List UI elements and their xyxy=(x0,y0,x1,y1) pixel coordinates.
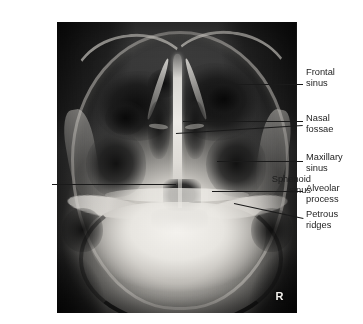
label-frontal-sinus-line-2: sinus xyxy=(306,78,335,89)
label-frontal-sinus: Frontalsinus xyxy=(306,67,335,90)
label-alveolar-process: Alveolarprocess xyxy=(306,183,340,206)
film-vignette xyxy=(57,22,297,313)
label-petrous-ridges-line-2: ridges xyxy=(306,220,338,231)
leader-line-nasal-fossae xyxy=(183,121,303,122)
label-petrous-ridges-line-1: Petrous xyxy=(306,209,338,220)
label-alveolar-process-line-2: process xyxy=(306,194,340,205)
label-nasal-fossae: Nasalfossae xyxy=(306,113,333,136)
figure-paranasal-sinus-radiograph: R FrontalsinusNasalfossaeMaxillarysinusA… xyxy=(0,0,363,324)
label-sphenoid-sinus: Sphenoidsinus xyxy=(272,174,311,197)
side-marker-right: R xyxy=(276,290,284,302)
label-nasal-fossae-line-1: Nasal xyxy=(306,113,333,124)
label-sphenoid-sinus-line-2: sinus xyxy=(272,185,311,196)
label-maxillary-sinus: Maxillarysinus xyxy=(306,152,343,175)
label-nasal-fossae-line-2: fossae xyxy=(306,124,333,135)
label-alveolar-process-line-1: Alveolar xyxy=(306,183,340,194)
label-petrous-ridges: Petrousridges xyxy=(306,209,338,232)
leader-line-maxillary-sinus xyxy=(217,161,303,162)
label-maxillary-sinus-line-1: Maxillary xyxy=(306,152,343,163)
label-maxillary-sinus-line-2: sinus xyxy=(306,163,343,174)
radiograph-image: R xyxy=(57,22,297,313)
label-sphenoid-sinus-line-1: Sphenoid xyxy=(272,174,311,185)
label-frontal-sinus-line-1: Frontal xyxy=(306,67,335,78)
leader-line-sphenoid-sinus xyxy=(52,184,176,185)
leader-line-frontal-sinus xyxy=(203,84,303,85)
